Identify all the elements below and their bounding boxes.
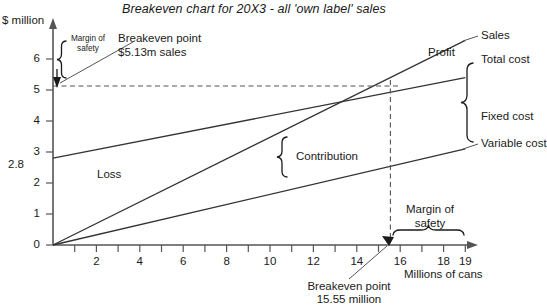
series-label-variable-cost: Variable cost <box>481 137 547 150</box>
series-label-total-cost: Total cost <box>481 53 530 66</box>
series-label-fixed-cost: Fixed cost <box>481 110 533 123</box>
x-tick-label-12: 12 <box>300 255 326 268</box>
x-tick-label-14: 14 <box>344 255 370 268</box>
total-cost-line <box>53 78 465 159</box>
y-tick-label-2: 2 <box>14 176 40 189</box>
x-axis-ticks <box>75 245 466 252</box>
breakeven-chart: Breakeven chart for 20X3 - all 'own labe… <box>0 0 547 308</box>
margin-of-safety-y-label-line1: Margin of <box>62 34 114 43</box>
x-tick-label-6: 6 <box>170 255 196 268</box>
x-axis <box>53 241 478 249</box>
breakeven-top-callout-line1: Breakeven point <box>118 32 201 46</box>
margin-of-safety-x-label-line2: safety <box>395 217 465 230</box>
breakeven-bottom-callout-line2: 15.55 million <box>265 293 433 307</box>
y-tick-label-3: 3 <box>14 145 40 158</box>
x-tick-label-16: 16 <box>387 255 413 268</box>
sales-label-leader-line <box>463 36 478 41</box>
y-tick-label-5: 5 <box>14 83 40 96</box>
contribution-brace-icon <box>277 137 287 177</box>
fixed-cost-brace-icon <box>461 63 473 142</box>
x-tick-label-10: 10 <box>257 255 283 268</box>
margin-of-safety-y-label-line2: safety <box>62 44 114 53</box>
variable-cost-label-leader-line <box>463 144 478 149</box>
margin-of-safety-x-label-line1: Margin of <box>395 203 465 216</box>
y-tick-label-4: 4 <box>14 114 40 127</box>
x-tick-label-4: 4 <box>127 255 153 268</box>
x-tick-label-8: 8 <box>214 255 240 268</box>
x-tick-label-19: 19 <box>452 255 478 268</box>
y-tick-label-6: 6 <box>14 52 40 65</box>
region-label-profit: Profit <box>428 46 455 59</box>
breakeven-top-callout-line2: $5.13m sales <box>118 46 186 60</box>
breakeven-bottom-callout-line1: Breakeven point <box>265 280 433 294</box>
region-label-contribution: Contribution <box>296 150 358 163</box>
region-label-loss: Loss <box>97 168 121 181</box>
series-label-sales: Sales <box>481 29 510 42</box>
y-tick-label-2-8: 2.8 <box>8 158 24 171</box>
margin-of-safety-y-arrow-icon <box>53 69 61 88</box>
y-tick-label-1: 1 <box>14 207 40 220</box>
x-tick-label-2: 2 <box>83 255 109 268</box>
y-tick-label-0: 0 <box>14 238 40 251</box>
y-axis <box>49 18 57 245</box>
y-axis-ticks <box>46 59 53 245</box>
